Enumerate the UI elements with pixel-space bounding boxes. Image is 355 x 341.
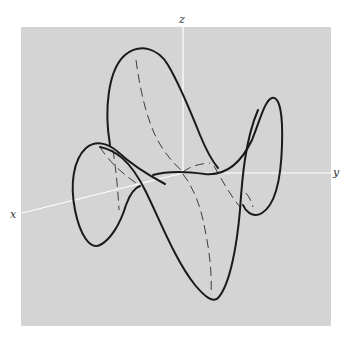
top-loop	[107, 48, 218, 168]
3d-curve-figure	[0, 0, 355, 341]
hidden-segment-right	[214, 166, 240, 207]
hidden-segment-left-vertical	[113, 150, 119, 210]
hidden-segment-right-small	[246, 193, 253, 207]
axes	[22, 27, 331, 213]
z-axis-label: z	[179, 14, 185, 25]
hidden-segment-bottom	[183, 174, 211, 295]
x-axis-label: x	[10, 209, 16, 220]
hidden-segment-top-loop	[136, 60, 183, 172]
center-wave	[153, 98, 282, 215]
hidden-segment-center	[183, 163, 210, 172]
hidden-curve-segments	[100, 60, 253, 295]
left-loop	[73, 143, 165, 246]
y-axis-label: y	[333, 167, 339, 178]
crossing-strand	[100, 110, 258, 300]
x-axis	[22, 173, 183, 213]
